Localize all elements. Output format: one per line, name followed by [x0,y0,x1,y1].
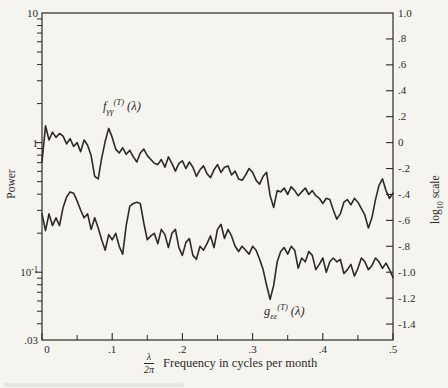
x-tick-label: .1 [108,343,116,355]
right-tick-label: -.2 [398,162,410,174]
f-label-arg: (λ) [124,99,141,113]
left-tick-label: 10 [27,7,39,19]
left-tick-label: .03 [24,334,38,346]
right-tick-label: -.8 [398,240,410,252]
left-tick-label: 1 [33,137,39,149]
right-axis-title-base: log [429,209,441,224]
f-curve [42,126,393,228]
f-label-sub: γγ [106,106,113,116]
x-tick-label: .4 [319,343,328,355]
right-tick-label: .2 [398,110,406,122]
lambda-over-2pi-fraction: λ 2π [144,352,154,375]
right-tick-label: 0 [398,136,404,148]
x-axis-title-text: Frequency in cycles per month [163,356,317,371]
f-label-sup: (T) [114,97,124,107]
g-curve-label: gεε(T) (λ) [264,302,305,321]
right-tick-label: -1.2 [398,292,415,304]
spectrum-plot: 10110-1.031.0.8.6.4.20-.2-.4-.6-.8-1.0-1… [0,0,448,388]
x-axis-title: λ 2π Frequency in cycles per month [144,352,317,375]
right-axis-title-rest: scale [429,175,441,201]
right-axis-title-sub: 10 [436,201,445,209]
power-spectrum-figure: 10110-1.031.0.8.6.4.20-.2-.4-.6-.8-1.0-1… [0,0,448,388]
right-axis-title: log10 scale [429,168,444,232]
right-tick-label: -1.0 [398,266,416,278]
fraction-numerator: λ [147,352,151,363]
left-tick-label: 10-1 [20,265,38,278]
left-axis-title: Power [5,162,17,206]
g-label-sub: εε [270,311,277,321]
right-tick-label: -.6 [398,214,410,226]
x-tick-label: .5 [389,343,398,355]
f-curve-label: fγγ(T) (λ) [103,97,141,116]
right-tick-label: 1.0 [398,7,412,19]
scan-artifact [4,383,184,387]
right-tick-label: .6 [398,58,407,70]
right-tick-label: -.4 [398,188,410,200]
x-tick-label: 0 [44,343,50,355]
g-curve [42,192,393,300]
g-label-sup: (T) [277,302,287,312]
right-tick-label: -1.4 [398,318,416,330]
g-label-arg: (λ) [288,304,305,318]
right-tick-label: .8 [398,32,407,44]
right-tick-label: .4 [398,84,407,96]
fraction-denominator: 2π [144,363,154,376]
